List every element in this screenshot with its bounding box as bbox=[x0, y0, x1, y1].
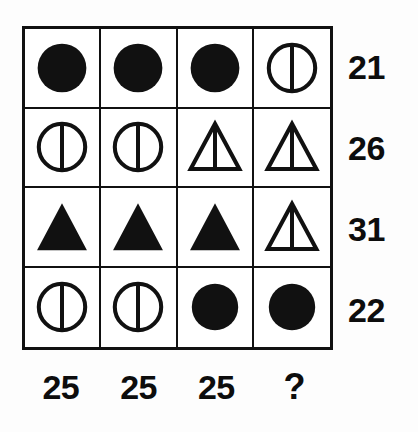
cell-r4c1 bbox=[25, 268, 101, 348]
divided-circle-icon bbox=[109, 118, 167, 176]
cell-r1c2 bbox=[101, 29, 177, 109]
column-sum-3: 25 bbox=[178, 355, 256, 417]
cell-r1c1 bbox=[25, 29, 101, 109]
cell-r1c3 bbox=[178, 29, 254, 109]
row-sum-3: 31 bbox=[341, 188, 411, 269]
filled-circle-icon bbox=[186, 39, 244, 97]
column-sum-2: 25 bbox=[100, 355, 178, 417]
divided-triangle-icon bbox=[186, 118, 244, 176]
filled-circle-icon bbox=[263, 278, 321, 336]
filled-circle-icon bbox=[33, 39, 91, 97]
filled-triangle-icon bbox=[33, 198, 91, 256]
divided-circle-icon bbox=[263, 39, 321, 97]
divided-circle-icon bbox=[109, 278, 167, 336]
row-sum-column: 21 26 31 22 bbox=[341, 26, 411, 350]
filled-triangle-icon bbox=[109, 198, 167, 256]
divided-triangle-icon bbox=[263, 118, 321, 176]
shape-matrix-grid bbox=[22, 26, 333, 350]
column-sum-row: 25 25 25 ? bbox=[22, 355, 333, 417]
cell-r2c2 bbox=[101, 109, 177, 189]
cell-r4c4 bbox=[254, 268, 330, 348]
cell-r4c3 bbox=[178, 268, 254, 348]
cell-r4c2 bbox=[101, 268, 177, 348]
row-sum-4: 22 bbox=[341, 269, 411, 350]
filled-circle-icon bbox=[186, 278, 244, 336]
cell-r3c4 bbox=[254, 188, 330, 268]
cell-r2c4 bbox=[254, 109, 330, 189]
column-sum-1: 25 bbox=[22, 355, 100, 417]
cell-r3c2 bbox=[101, 188, 177, 268]
filled-circle-icon bbox=[109, 39, 167, 97]
cell-r3c1 bbox=[25, 188, 101, 268]
cell-r2c3 bbox=[178, 109, 254, 189]
row-sum-2: 26 bbox=[341, 107, 411, 188]
divided-triangle-icon bbox=[263, 198, 321, 256]
cell-r2c1 bbox=[25, 109, 101, 189]
cell-r1c4 bbox=[254, 29, 330, 109]
filled-triangle-icon bbox=[186, 198, 244, 256]
cell-r3c3 bbox=[178, 188, 254, 268]
row-sum-1: 21 bbox=[341, 26, 411, 107]
puzzle-figure: 21 26 31 22 25 25 25 ? bbox=[0, 0, 418, 432]
column-sum-4-unknown: ? bbox=[255, 355, 333, 417]
divided-circle-icon bbox=[33, 118, 91, 176]
divided-circle-icon bbox=[33, 278, 91, 336]
